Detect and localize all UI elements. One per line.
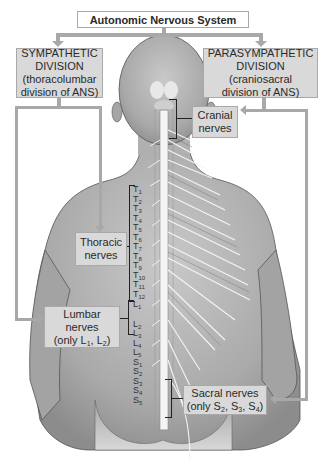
cranial-bracket [169,99,177,139]
thoracic-line2: nerves [84,249,117,262]
sacral-nerves-box: Sacral nerves (only S2, S3, S4) [183,385,267,415]
connector-top-horizontal [58,33,261,37]
connector-para-sacral-across [276,398,308,401]
sacral-bracket-tick [171,398,183,399]
lumbar-sacral-segment-labels: L1 L2 L3 L4 L5 S1 S2 S3 S4 S5 [133,300,155,405]
arrow-left-sacral [270,394,276,404]
cranial-nerves-box: Cranial nerves [192,106,238,138]
title-box: Autonomic Nervous System [77,11,249,28]
seg-T12: T12 [133,290,155,300]
arrow-left-cranial [240,105,246,115]
thoracic-nerves-box: Thoracic nerves [75,232,127,266]
lumbar-line2: nerves [65,321,98,334]
lumbar-nerves-box: Lumbar nerves (only L1, L2) [44,306,120,348]
cranial-line2: nerves [198,122,231,135]
parasympathetic-line4: division of ANS) [222,86,300,99]
parasympathetic-line1: PARASYMPATHETIC [208,47,314,60]
thoracic-line1: Thoracic [80,236,122,249]
page-title: Autonomic Nervous System [90,14,237,26]
connector-symp-lumbar-across [15,318,40,321]
thoracic-bracket-tick [127,246,130,247]
connector-symp-thoracic-down [99,106,102,228]
connector-para-horizontal [246,109,308,112]
sympathetic-line2: DIVISION [35,60,83,73]
sacral-line2: (only S2, S3, S4) [187,400,264,413]
seg-L1: L1 [133,300,155,310]
connector-symp-lumbar-down [15,106,18,320]
sympathetic-line3: (thoracolumbar [23,73,97,86]
sacral-line1: Sacral nerves [191,387,258,400]
parasympathetic-division-box: PARASYMPATHETIC DIVISION (craniosacral d… [203,48,318,98]
cranial-line1: Cranial [198,109,233,122]
lumbar-bracket-tick [120,318,128,319]
cranial-bracket-tick [176,118,192,119]
sympathetic-line1: SYMPATHETIC [21,47,98,60]
sympathetic-division-box: SYMPATHETIC DIVISION (thoracolumbar divi… [16,48,103,98]
connector-symp-horizontal [15,106,102,109]
sympathetic-line4: division of ANS) [21,86,99,99]
seg-S5: S5 [133,396,155,406]
parasympathetic-line3: (craniosacral [229,73,292,86]
parasympathetic-line2: DIVISION [236,60,284,73]
connector-para-sacral-down [305,109,308,401]
lumbar-line1: Lumbar [63,308,100,321]
lumbar-line3: (only L1, L2) [54,334,111,347]
thoracic-segment-labels: T1 T2 T3 T4 T5 T6 T7 T8 T9 T10 T11 T12 [133,185,155,299]
